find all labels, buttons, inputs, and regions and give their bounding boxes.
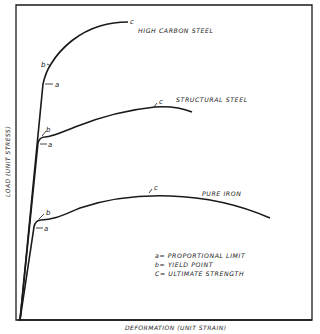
legend: a= PROPORTIONAL LIMIT b= YIELD POINT C= … <box>155 252 246 277</box>
y-axis-label: LOAD (UNIT STRESS) <box>4 126 11 197</box>
stress-strain-chart: a b c HIGH CARBON STEEL a b c STRUCTURAL… <box>0 0 320 334</box>
marker-c-high-carbon: c <box>130 18 134 26</box>
svg-text:a: a <box>48 141 52 149</box>
curve-high-carbon-steel <box>20 22 128 320</box>
marker-b-pure-iron: b <box>39 209 51 219</box>
label-high-carbon-steel: HIGH CARBON STEEL <box>138 27 214 34</box>
marker-c-structural: c <box>154 98 163 107</box>
x-axis-label: DEFORMATION (UNIT STRAIN) <box>125 324 227 331</box>
label-structural-steel: STRUCTURAL STEEL <box>176 96 248 103</box>
svg-text:a: a <box>55 81 59 89</box>
legend-item-c: C= ULTIMATE STRENGTH <box>155 270 244 277</box>
chart-svg: a b c HIGH CARBON STEEL a b c STRUCTURAL… <box>0 0 320 334</box>
svg-text:a: a <box>44 225 48 233</box>
svg-text:b: b <box>46 126 51 134</box>
marker-b-structural: b <box>42 126 51 136</box>
svg-text:b: b <box>41 61 46 69</box>
marker-a-pure-iron: a <box>36 225 48 233</box>
marker-a-structural: a <box>40 141 52 149</box>
marker-c-pure-iron: c <box>149 184 158 193</box>
marker-a-high-carbon: a <box>45 81 59 89</box>
svg-text:b: b <box>46 209 51 217</box>
legend-item-a: a= PROPORTIONAL LIMIT <box>155 252 246 259</box>
legend-item-b: b= YIELD POINT <box>155 261 214 268</box>
svg-text:c: c <box>159 98 163 106</box>
svg-text:c: c <box>154 184 158 192</box>
label-pure-iron: PURE IRON <box>202 190 241 197</box>
svg-text:c: c <box>130 18 134 26</box>
